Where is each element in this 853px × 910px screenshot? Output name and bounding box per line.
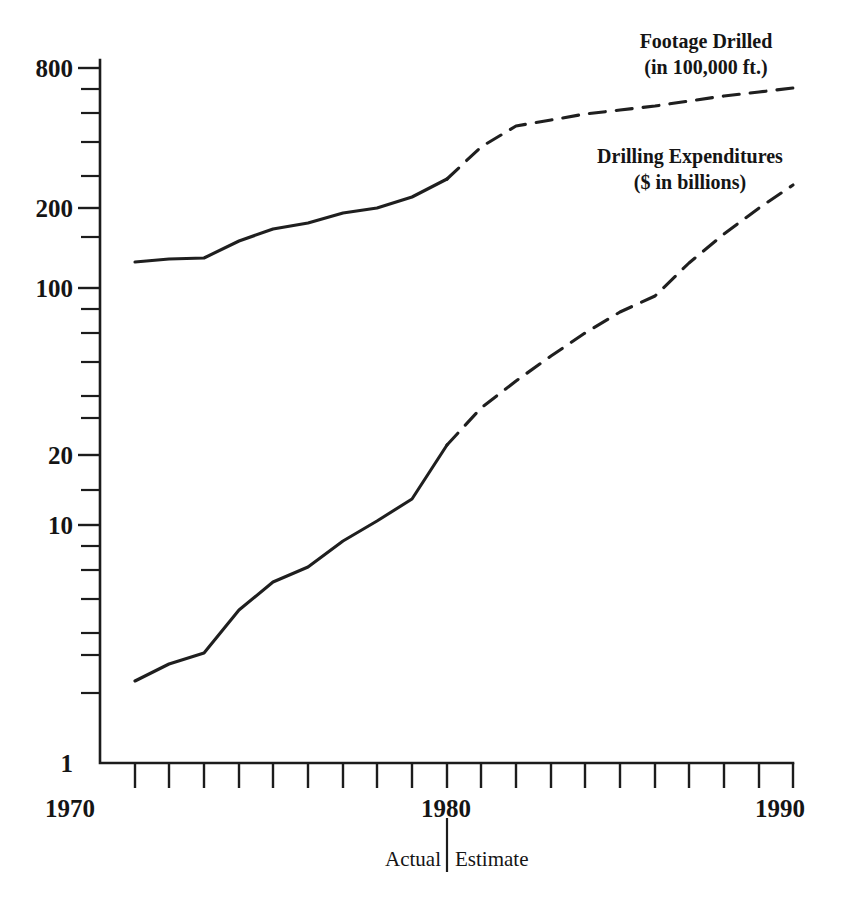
x-axis-label-1970: 1970 bbox=[45, 795, 95, 822]
chart-svg: 800 200 100 20 10 1 bbox=[0, 0, 853, 910]
footage-drilled-annotation: Footage Drilled (in 100,000 ft.) bbox=[640, 30, 773, 79]
y-axis-label-20: 20 bbox=[48, 442, 73, 469]
y-axis-label-10: 10 bbox=[48, 512, 73, 539]
drilling-expenditures-actual-line bbox=[135, 445, 447, 681]
footage-drilled-label-line1: Footage Drilled bbox=[640, 30, 773, 53]
estimate-region-label: Estimate bbox=[455, 847, 528, 871]
y-axis-labels: 800 200 100 20 10 1 bbox=[36, 55, 74, 777]
y-axis-label-1: 1 bbox=[61, 750, 74, 777]
y-axis-ticks bbox=[78, 68, 100, 693]
footage-drilled-actual-line bbox=[135, 179, 447, 262]
y-axis-label-200: 200 bbox=[36, 195, 74, 222]
y-axis-label-100: 100 bbox=[36, 275, 74, 302]
x-axis-label-1980: 1980 bbox=[421, 795, 471, 822]
drilling-expenditures-estimate-line bbox=[447, 185, 793, 445]
chart-figure: 800 200 100 20 10 1 bbox=[0, 0, 853, 910]
drilling-expenditures-label-line2: ($ in billions) bbox=[634, 171, 746, 194]
actual-region-label: Actual bbox=[385, 847, 441, 871]
x-axis-label-1990: 1990 bbox=[755, 795, 805, 822]
footage-drilled-label-line2: (in 100,000 ft.) bbox=[644, 56, 767, 79]
x-axis-labels: 1970 1980 1990 bbox=[45, 795, 805, 822]
drilling-expenditures-label-line1: Drilling Expenditures bbox=[597, 145, 783, 168]
x-axis-ticks bbox=[135, 763, 793, 788]
drilling-expenditures-annotation: Drilling Expenditures ($ in billions) bbox=[597, 145, 783, 194]
y-axis-label-800: 800 bbox=[36, 55, 74, 82]
